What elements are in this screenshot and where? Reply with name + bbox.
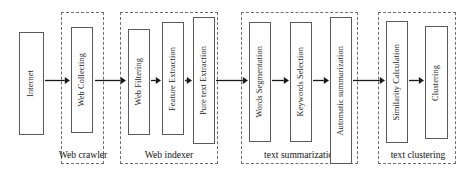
process-node-words-segmentation[interactable]: Words Segmentation [249,22,271,142]
process-node-internet[interactable]: Internet [19,32,44,135]
group-label-text-clustering: text clustering [380,149,456,160]
group-label-web-indexer: Web indexer [128,149,210,160]
process-node-similarity-calculation[interactable]: Similarity Calculation [386,21,408,143]
process-node-label: Words Segmentation [256,46,264,118]
process-node-label: Feature Extraction [169,47,177,111]
process-node-label: Web Filtering [135,58,143,105]
process-node-label: Clustering [432,65,440,101]
process-node-label: Similarity Calculation [393,44,401,120]
process-node-label: Internet [27,70,35,97]
process-node-web-collecting[interactable]: Web Collecting [71,27,93,133]
process-node-pure-text-extraction[interactable]: Pure text Extraction [193,17,215,144]
process-node-label: Automatic summarization [337,46,345,136]
process-node-label: Web Collecting [78,53,86,107]
process-node-feature-extraction[interactable]: Feature Extraction [162,22,184,135]
process-node-clustering[interactable]: Clustering [425,26,448,139]
group-label-web-crawler: Web crawler [55,149,111,160]
process-node-web-filtering[interactable]: Web Filtering [128,29,150,135]
process-node-label: Pure text Extraction [200,46,208,115]
process-node-keywords-selection[interactable]: Keywords Selection [290,22,312,142]
process-node-automatic-summarization[interactable]: Automatic summarization [330,17,352,164]
flowchart-diagram: InternetWeb crawlerWeb CollectingWeb ind… [0,0,476,185]
process-node-label: Keywords Selection [297,47,305,116]
